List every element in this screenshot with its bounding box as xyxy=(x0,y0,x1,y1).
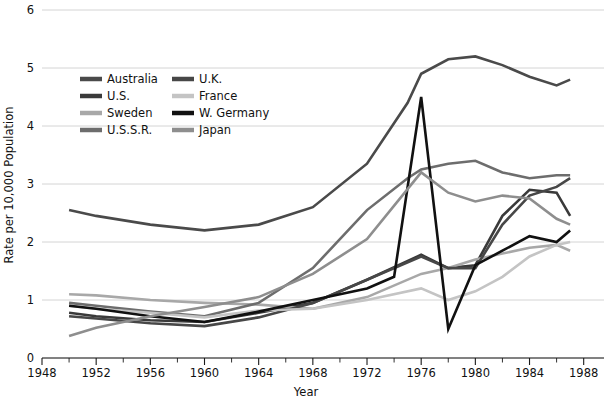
x-axis-title: Year xyxy=(293,385,319,399)
y-axis-title: Rate per 10,000 Population xyxy=(2,106,16,263)
x-tick-label-1984: 1984 xyxy=(515,366,544,380)
legend-label-japan: Japan xyxy=(198,123,231,137)
x-tick-label-1988: 1988 xyxy=(569,366,598,380)
x-tick-label-1956: 1956 xyxy=(136,366,165,380)
x-tick-label-1964: 1964 xyxy=(244,366,273,380)
y-tick-label-3: 3 xyxy=(27,177,34,191)
line-chart: 1948195219561960196419681972197619801984… xyxy=(0,0,609,400)
chart-canvas: 1948195219561960196419681972197619801984… xyxy=(0,0,609,400)
y-tick-label-2: 2 xyxy=(27,235,34,249)
x-tick-label-1960: 1960 xyxy=(190,366,219,380)
y-tick-label-4: 4 xyxy=(27,119,34,133)
legend-label-w-germany: W. Germany xyxy=(199,106,269,120)
legend-label-australia: Australia xyxy=(107,72,158,86)
legend-label-u-k: U.K. xyxy=(199,72,222,86)
x-tick-label-1980: 1980 xyxy=(461,366,490,380)
legend-label-france: France xyxy=(199,89,237,103)
legend-label-u-s-s-r: U.S.S.R. xyxy=(107,123,152,137)
legend-label-sweden: Sweden xyxy=(107,106,152,120)
y-tick-label-0: 0 xyxy=(27,351,34,365)
x-tick-label-1952: 1952 xyxy=(82,366,111,380)
legend-label-u-s: U.S. xyxy=(107,89,130,103)
x-tick-label-1968: 1968 xyxy=(298,366,327,380)
x-tick-label-1976: 1976 xyxy=(407,366,436,380)
y-tick-label-6: 6 xyxy=(27,3,34,17)
y-tick-label-1: 1 xyxy=(27,293,34,307)
y-tick-label-5: 5 xyxy=(27,61,34,75)
x-tick-label-1948: 1948 xyxy=(27,366,56,380)
x-tick-label-1972: 1972 xyxy=(352,366,381,380)
